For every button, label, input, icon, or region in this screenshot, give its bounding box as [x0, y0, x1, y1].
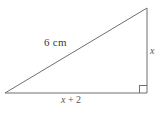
base-label: x + 2	[61, 95, 81, 105]
base-label-constant: 2	[76, 94, 81, 105]
vertical-leg-label: x	[150, 46, 154, 56]
hypotenuse-label: 6 cm	[44, 37, 67, 48]
hypotenuse-line	[5, 8, 147, 93]
base-label-operator: +	[65, 94, 76, 105]
geometry-figure: 6 cm x x + 2	[0, 0, 162, 113]
right-angle-marker-icon	[139, 85, 147, 93]
